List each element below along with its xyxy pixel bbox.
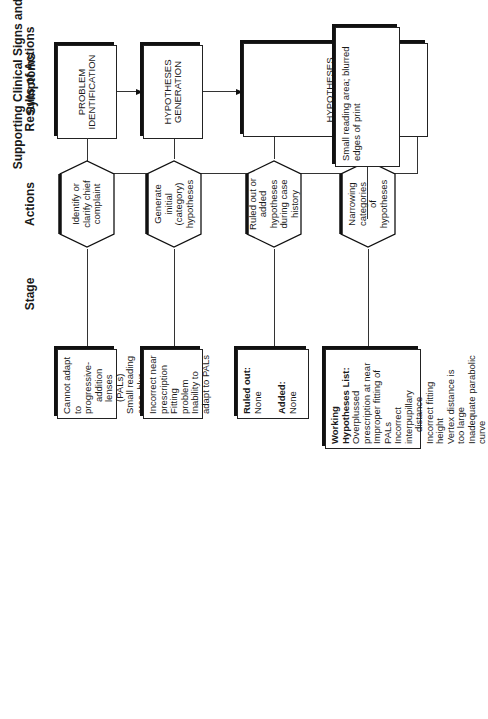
arrow-line	[174, 139, 175, 159]
result-box-working-hypotheses: Working Hypotheses List: Overplussed pre…	[325, 349, 421, 449]
result-box-2: Incorrect near prescription Fitting prob…	[143, 349, 203, 419]
action-narrowing-categories: Narrowing categories of hypotheses	[339, 159, 397, 249]
result-line: Incorrect near prescription	[148, 354, 169, 414]
hypothesis-item: Vertex distance is too large	[446, 354, 467, 444]
arrow-line	[368, 249, 369, 349]
added-label: Added:	[277, 354, 288, 414]
arrow-head-icon	[136, 89, 143, 95]
action-label: Identify or clarify chief complaint	[71, 178, 103, 230]
result-line: Cannot adapt to progressive-	[62, 354, 94, 414]
hypothesis-item: Improper fitting of PALs	[372, 354, 393, 444]
header-supporting: Supporting Clinical Signs and Symptoms	[12, 0, 38, 174]
action-generate-hypotheses: Generate initial (category) hypotheses	[145, 159, 203, 249]
hypothesis-item: Incorrect interpupillary	[393, 354, 414, 444]
arrow-head-icon	[236, 89, 243, 95]
arrow-line	[274, 249, 275, 349]
hypothesis-item: Incorrect fitting height	[425, 354, 446, 444]
arrow-line	[87, 249, 88, 349]
stage-problem-identification: PROBLEM IDENTIFICATION	[57, 45, 117, 139]
supporting-signs-box: Small reading area; blurred edges of pri…	[335, 27, 400, 167]
added-value: None	[288, 354, 299, 414]
arrow-line	[87, 139, 88, 159]
result-line: addition lenses (PALs)	[94, 354, 126, 414]
action-label: Generate initial (category) hypotheses	[153, 178, 195, 230]
working-hypotheses-title: Working Hypotheses List:	[330, 354, 351, 444]
result-line: Inability to adapt to PALs	[190, 354, 211, 414]
header-actions: Actions	[24, 174, 37, 234]
stage-label: HYPOTHESES GENERATION	[163, 46, 184, 138]
action-identify-complaint: Identify or clarify chief complaint	[58, 159, 116, 249]
supporting-text: Small reading area; blurred edges of pri…	[340, 46, 362, 161]
stage-hypotheses-generation: HYPOTHESES GENERATION	[143, 45, 203, 139]
action-ruled-out-added: Ruled out or added hypotheses during cas…	[245, 159, 303, 249]
stage-label: PROBLEM IDENTIFICATION	[77, 46, 98, 138]
case-history-right	[417, 137, 418, 174]
arrow-line	[274, 137, 275, 159]
ruled-out-value: None	[253, 354, 264, 414]
action-label: Narrowing categories of hypotheses	[347, 178, 389, 230]
ruled-out-label: Ruled out:	[242, 354, 253, 414]
result-box-3: Ruled out: None Added: None	[237, 349, 309, 419]
arrow-line	[367, 167, 368, 219]
action-label: Ruled out or added hypotheses during cas…	[248, 178, 301, 230]
result-box-1: Cannot adapt to progressive- addition le…	[57, 349, 117, 419]
result-line: Fitting problem	[169, 354, 190, 414]
hypothesis-item: distance	[414, 354, 425, 444]
hypothesis-item: Inadequate parabolic curve	[467, 354, 488, 444]
hypothesis-item: Overplussed prescription at near	[351, 354, 372, 444]
arrow-line	[174, 249, 175, 349]
arrow-line	[203, 91, 240, 92]
header-stage: Stage	[24, 264, 37, 324]
